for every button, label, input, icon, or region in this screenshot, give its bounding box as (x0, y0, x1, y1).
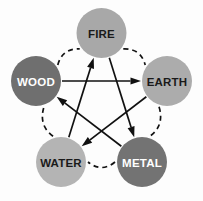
element-node-fire[interactable]: FIRE (77, 8, 127, 58)
five-elements-diagram: FIREEARTHMETALWATERWOOD (0, 0, 203, 201)
element-label-earth: EARTH (147, 76, 188, 88)
element-node-water[interactable]: WATER (36, 137, 86, 187)
element-node-metal[interactable]: METAL (117, 137, 167, 187)
element-node-wood[interactable]: WOOD (11, 56, 61, 106)
element-label-fire: FIRE (88, 28, 115, 40)
element-label-metal: METAL (122, 157, 162, 169)
wuxing-svg-canvas: FIREEARTHMETALWATERWOOD (0, 0, 203, 201)
element-label-water: WATER (40, 157, 82, 169)
element-label-wood: WOOD (17, 76, 55, 88)
element-node-earth[interactable]: EARTH (142, 56, 192, 106)
